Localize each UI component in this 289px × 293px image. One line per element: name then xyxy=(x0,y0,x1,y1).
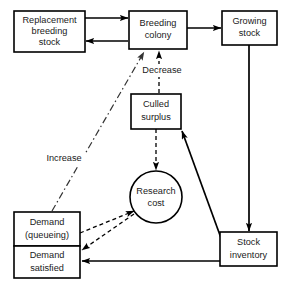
node-research-cost-line1: Research xyxy=(136,186,175,196)
node-replacement-breeding-stock[interactable]: Replacement breeding stock xyxy=(14,11,85,52)
node-replacement-breeding-stock-line2: breeding xyxy=(32,26,68,36)
node-demand-queueing-line2: (queueing) xyxy=(25,230,69,240)
edge-label-decrease-text: Decrease xyxy=(142,65,181,75)
node-replacement-breeding-stock-line3: stock xyxy=(39,37,61,47)
node-growing-stock[interactable]: Growing stock xyxy=(222,11,277,45)
node-breeding-colony-line2: colony xyxy=(145,30,172,40)
edge-demand-queueing-to-breeding xyxy=(52,52,144,211)
node-breeding-colony-line1: Breeding xyxy=(140,18,177,28)
edge-label-increase-text: Increase xyxy=(46,153,81,163)
edge-label-increase: Increase xyxy=(44,152,85,165)
node-demand-queueing[interactable]: Demand (queueing) xyxy=(14,212,80,246)
node-demand-satisfied-line2: satisfied xyxy=(30,263,64,273)
flow-diagram-canvas: Decrease Increase Replacement breeding s… xyxy=(0,0,289,293)
flow-diagram: Decrease Increase Replacement breeding s… xyxy=(0,0,289,293)
node-stock-inventory-line1: Stock xyxy=(237,237,260,247)
edge-label-decrease: Decrease xyxy=(141,64,184,77)
node-research-cost[interactable]: Research cost xyxy=(130,171,182,223)
node-demand-satisfied[interactable]: Demand satisfied xyxy=(14,246,80,278)
edge-research-to-demand-satisfied xyxy=(82,214,134,250)
node-breeding-colony[interactable]: Breeding colony xyxy=(129,11,187,49)
node-growing-stock-line2: stock xyxy=(239,28,261,38)
node-stock-inventory[interactable]: Stock inventory xyxy=(220,232,277,266)
node-culled-surplus-line1: Culled xyxy=(143,99,169,109)
node-demand-satisfied-line1: Demand xyxy=(30,250,65,260)
node-culled-surplus-line2: surplus xyxy=(141,112,171,122)
edge-demand-queueing-to-research xyxy=(80,211,134,233)
node-demand-queueing-line1: Demand xyxy=(30,217,65,227)
node-stock-inventory-line2: inventory xyxy=(230,250,268,260)
node-research-cost-line2: cost xyxy=(148,198,165,208)
edge-stock-inventory-to-culled xyxy=(182,131,221,238)
node-growing-stock-line1: Growing xyxy=(232,16,266,26)
node-replacement-breeding-stock-line1: Replacement xyxy=(22,15,77,25)
node-culled-surplus[interactable]: Culled surplus xyxy=(131,94,181,129)
